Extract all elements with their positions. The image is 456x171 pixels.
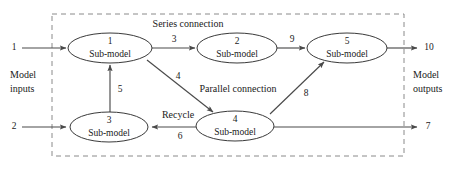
node-sub-model-3[interactable]: 3 Sub-model (70, 112, 148, 142)
node-sub-model-1[interactable]: 1 Sub-model (68, 33, 152, 63)
stream-label-5: 5 (118, 84, 123, 94)
stream-label-4: 4 (176, 71, 181, 81)
node-sub-model-4[interactable]: 4 Sub-model (196, 111, 274, 141)
flow-line-stream-8 (270, 62, 324, 114)
model-inputs-caption-line1: Model (10, 69, 36, 80)
node-label-sub-model-4: Sub-model (214, 127, 256, 137)
stream-label-9: 9 (290, 34, 295, 44)
stream-label-10: 10 (424, 42, 434, 52)
node-label-sub-model-1: Sub-model (89, 49, 131, 59)
diagram-canvas: 1 Sub-model 2 Sub-model 5 Sub-model 3 Su… (0, 0, 456, 171)
node-sub-model-5[interactable]: 5 Sub-model (307, 33, 387, 63)
node-sub-model-2[interactable]: 2 Sub-model (197, 33, 277, 63)
node-index-sub-model-2: 2 (235, 36, 240, 46)
node-label-sub-model-2: Sub-model (216, 49, 258, 59)
node-index-sub-model-5: 5 (345, 36, 350, 46)
series-connection-label: Series connection (153, 18, 224, 29)
stream-label-1: 1 (12, 42, 17, 52)
stream-label-7: 7 (426, 121, 431, 131)
model-outputs-caption-line2: outputs (413, 83, 443, 94)
stream-label-2: 2 (12, 121, 17, 131)
model-inputs-caption-line2: inputs (10, 83, 35, 94)
stream-label-3: 3 (172, 34, 177, 44)
stream-label-8: 8 (304, 88, 309, 98)
stream-label-6: 6 (178, 131, 183, 141)
node-index-sub-model-1: 1 (108, 36, 113, 46)
node-label-sub-model-3: Sub-model (88, 128, 130, 138)
process-flow-diagram: 1 Sub-model 2 Sub-model 5 Sub-model 3 Su… (0, 0, 456, 171)
node-index-sub-model-4: 4 (233, 114, 238, 124)
model-outputs-caption-line1: Model (413, 69, 439, 80)
node-label-sub-model-5: Sub-model (326, 49, 368, 59)
recycle-label: Recycle (162, 109, 195, 120)
node-index-sub-model-3: 3 (107, 115, 112, 125)
parallel-connection-label: Parallel connection (200, 83, 277, 94)
